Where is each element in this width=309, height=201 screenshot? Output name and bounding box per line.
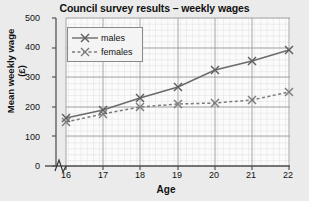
legend-label-males: males	[101, 31, 125, 45]
chart-legend: males females	[67, 27, 143, 62]
legend-label-females: females	[101, 45, 133, 59]
plot-area	[0, 0, 309, 201]
legend-item-males: males	[72, 30, 125, 44]
legend-marker-males-icon	[72, 33, 98, 43]
legend-marker-females-icon	[72, 47, 98, 57]
legend-item-females: females	[72, 44, 133, 58]
chart-container: Council survey results – weekly wages Me…	[0, 0, 309, 201]
